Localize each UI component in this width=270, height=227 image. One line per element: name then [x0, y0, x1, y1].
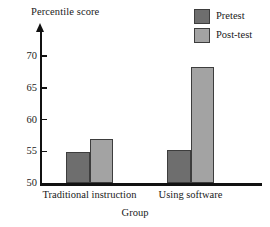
bar-post-test-group-2 [191, 67, 215, 183]
legend-swatch-icon [194, 28, 210, 43]
bar-pretest-group-2 [167, 150, 191, 183]
legend-swatch-icon [194, 9, 210, 24]
bar-post-test-group-1 [90, 139, 114, 184]
bar-chart: Percentile score 5055606570 Traditional … [0, 0, 270, 227]
y-axis-tick-label: 55 [27, 146, 38, 157]
y-axis-tick-label: 50 [27, 178, 38, 189]
x-axis-title: Group [0, 207, 270, 218]
y-axis-tick-label: 70 [27, 51, 38, 62]
bar-pretest-group-1 [66, 152, 90, 184]
plot-area [40, 26, 262, 185]
legend-item: Post-test [194, 28, 252, 43]
x-axis-category-label: Using software [121, 189, 261, 200]
legend-label: Pretest [216, 11, 245, 22]
legend-item: Pretest [194, 9, 252, 24]
y-axis-title: Percentile score [31, 6, 99, 17]
legend-label: Post-test [216, 30, 252, 41]
chart-legend: PretestPost-test [194, 9, 252, 43]
y-axis-tick-label: 60 [27, 115, 38, 126]
y-axis-tick-label: 65 [27, 83, 38, 94]
